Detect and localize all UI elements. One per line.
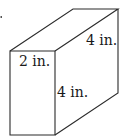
prism-diagram: 2 in. 4 in. 4 in. [0, 0, 126, 140]
width-label: 2 in. [19, 53, 50, 69]
rectangular-prism-figure: 2 in. 4 in. 4 in. [0, 0, 126, 140]
stray-dot [1, 16, 3, 18]
height-label: 4 in. [57, 84, 88, 100]
right-face [55, 9, 118, 135]
depth-label: 4 in. [86, 32, 117, 48]
